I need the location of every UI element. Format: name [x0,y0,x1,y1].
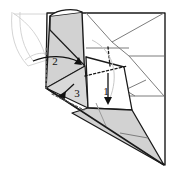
step-label-1: 1 [103,85,109,97]
origami-diagram-svg: 1 2 3 [0,0,171,178]
step-label-3: 3 [74,87,80,99]
origami-diagram: 1 2 3 [0,0,171,178]
step-label-2: 2 [52,55,58,67]
